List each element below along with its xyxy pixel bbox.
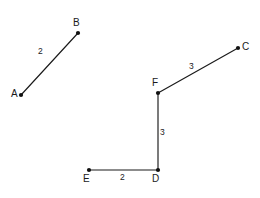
vertex-point-a <box>19 93 23 97</box>
vertex-label-b: B <box>73 18 80 28</box>
length-label-ab: 2 <box>38 47 43 56</box>
segment-ab <box>21 33 78 95</box>
length-label-ed: 2 <box>120 173 125 182</box>
vertex-point-e <box>87 168 91 172</box>
vertex-label-f: F <box>152 78 158 88</box>
figure-canvas <box>0 0 260 198</box>
segments-group <box>21 33 238 170</box>
vertex-label-e: E <box>83 174 90 184</box>
vertex-point-b <box>76 31 80 35</box>
vertex-dots-group <box>19 31 240 172</box>
vertex-label-c: C <box>242 42 249 52</box>
vertex-label-d: D <box>152 174 159 184</box>
geometry-figure: ABCFDE2332 <box>0 0 260 198</box>
segment-fc <box>158 48 238 93</box>
vertex-point-f <box>156 91 160 95</box>
vertex-label-a: A <box>11 89 18 99</box>
vertex-point-c <box>236 46 240 50</box>
length-label-fd: 3 <box>160 128 165 137</box>
vertex-point-d <box>156 168 160 172</box>
length-label-fc: 3 <box>189 62 194 71</box>
